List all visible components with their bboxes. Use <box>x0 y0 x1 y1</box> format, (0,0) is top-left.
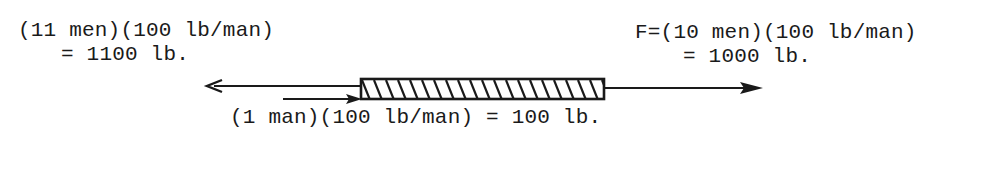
force-diagram-graphic <box>0 0 991 172</box>
left-arrow-icon <box>207 80 361 92</box>
small-right-arrow-icon <box>283 94 362 104</box>
right-arrow-icon <box>604 82 763 94</box>
hatched-bar <box>361 79 604 99</box>
